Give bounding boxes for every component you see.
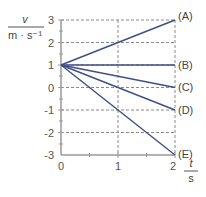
svg-text:(E): (E)	[178, 148, 193, 160]
svg-text:-2: -2	[44, 127, 54, 139]
svg-text:s: s	[188, 172, 194, 184]
chart-svg: 3 2 1 0 -1 -2 -3 0 1 2 v m · s⁻¹ t s (A)…	[0, 0, 206, 197]
svg-text:2: 2	[170, 160, 176, 172]
svg-text:(A): (A)	[178, 10, 193, 22]
svg-text:-3: -3	[44, 149, 54, 161]
x-axis-label: t s	[184, 157, 198, 184]
svg-text:1: 1	[115, 160, 121, 172]
svg-text:0: 0	[48, 82, 54, 94]
svg-text:1: 1	[48, 59, 54, 71]
svg-text:-1: -1	[44, 104, 54, 116]
svg-text:(D): (D)	[178, 104, 193, 116]
svg-text:(B): (B)	[178, 59, 193, 71]
svg-text:m · s⁻¹: m · s⁻¹	[8, 29, 42, 41]
y-axis-label: v m · s⁻¹	[8, 13, 44, 41]
svg-text:2: 2	[48, 37, 54, 49]
y-minor-ticks	[58, 20, 175, 158]
x-tick-labels: 0 1 2	[58, 160, 176, 172]
svg-text:v: v	[22, 13, 29, 25]
svg-text:0: 0	[58, 160, 64, 172]
y-tick-labels: 3 2 1 0 -1 -2 -3	[44, 14, 54, 161]
svg-text:(C): (C)	[178, 81, 193, 93]
line-c	[61, 65, 175, 88]
svg-text:3: 3	[48, 14, 54, 26]
series-labels: (A) (B) (C) (D) (E)	[178, 10, 193, 160]
